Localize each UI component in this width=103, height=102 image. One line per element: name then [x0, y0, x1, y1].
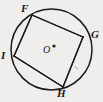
vertex-point-f [31, 14, 33, 16]
side-hi [14, 56, 63, 87]
figure-canvas [0, 0, 103, 102]
vertex-label-i: I [1, 50, 5, 61]
side-fg [32, 15, 83, 37]
center-point-dot [52, 44, 55, 47]
vertex-point-i [13, 55, 15, 57]
vertex-label-g: G [91, 29, 99, 40]
circumscribed-circle [11, 9, 92, 90]
vertex-label-f: F [21, 3, 28, 14]
vertex-point-g [82, 36, 84, 38]
side-gh [63, 37, 83, 87]
side-gh-tick-mark [75, 66, 79, 70]
circle-center-label: O [43, 45, 50, 55]
geometry-figure: F G H I O [0, 0, 103, 102]
vertex-label-h: H [57, 88, 66, 99]
